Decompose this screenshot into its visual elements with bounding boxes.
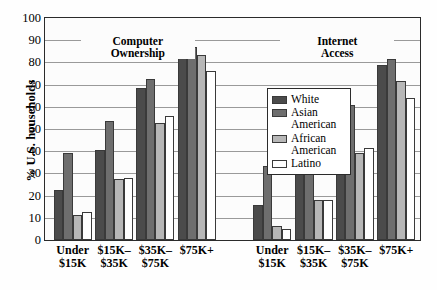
chart-figure: % U.S. households 0102030405060708090100… [0,0,437,290]
bar [295,171,305,240]
x-axis-labels: Under$15K$15K–$35K$35K–$75K$75K+Under$15… [44,244,421,288]
panel-header-line: Ownership [86,47,190,59]
bar [253,205,263,241]
legend-label: Latino [291,157,321,169]
panel-header: InternetAccess [280,35,394,60]
bar [263,166,273,240]
panel-header-line: Access [285,47,389,59]
legend-label: African American [291,132,336,156]
legend-label: Asian American [291,106,336,130]
bar [146,79,156,240]
bar [377,65,387,240]
y-tick-label-60: 60 [29,101,42,114]
legend-swatch [272,109,287,117]
bar [136,88,146,240]
x-tick-label-line: $75K [118,257,192,270]
bar [197,55,207,240]
bar [206,71,216,240]
y-tick-label-50: 50 [29,123,42,136]
y-tick-label-90: 90 [29,34,42,47]
bar [155,123,165,240]
x-tick-label: $75K+ [160,244,234,257]
legend-swatch [272,160,287,168]
legend-item: White [272,93,345,105]
bar [82,212,92,240]
bar [355,153,365,240]
plot-area: 0102030405060708090100 ComputerOwnership… [44,17,421,241]
bar [364,148,374,240]
legend-label: White [291,93,319,105]
legend-item: Asian American [272,106,345,130]
legend-item: Latino [272,157,345,169]
bar [282,229,292,240]
y-tick-label-30: 30 [29,167,42,180]
y-tick-label-10: 10 [29,212,42,225]
bar [323,200,333,240]
y-tick-label-70: 70 [29,78,42,91]
legend-swatch [272,135,287,143]
bar [73,215,83,241]
panel-header-line: Computer [86,35,190,47]
panel-header: ComputerOwnership [81,35,195,60]
x-tick-label: $75K+ [359,244,433,257]
bar [387,59,397,240]
bar [124,178,134,240]
y-tick-label-40: 40 [29,145,42,158]
bar [187,47,197,240]
panel-header-line: Internet [285,35,389,47]
y-tick-label-20: 20 [29,189,42,202]
bar [105,121,115,240]
legend: WhiteAsian AmericanAfrican AmericanLatin… [267,88,351,175]
bar [178,47,188,240]
bar [272,226,282,240]
bar [314,200,324,240]
bar [95,150,105,240]
legend-swatch [272,96,287,104]
bar [406,98,416,240]
x-tick-label-line: $75K [318,257,392,270]
y-tick-label-80: 80 [29,56,42,69]
legend-item: African American [272,132,345,156]
bar [114,179,124,240]
bar [396,81,406,240]
y-tick-label-100: 100 [22,12,41,25]
x-tick-label-line: $75K+ [160,244,234,257]
bar [54,190,64,240]
x-tick-label-line: $75K+ [359,244,433,257]
bar [165,116,175,240]
bar [63,153,73,240]
